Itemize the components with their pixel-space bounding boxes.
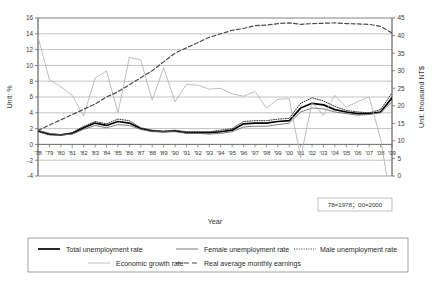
x-tick-label: '90 (171, 150, 179, 156)
x-tick-label: '03 (320, 150, 328, 156)
x-tick-label: '08 (377, 150, 385, 156)
x-tick-label: '92 (194, 150, 202, 156)
x-tick-label: '87 (137, 150, 145, 156)
y-tick-label-left: -4 (27, 172, 33, 179)
x-tick-label: '93 (205, 150, 213, 156)
x-tick-label: '82 (80, 150, 88, 156)
x-tick-label: '97 (251, 150, 259, 156)
x-axis-title: Year (208, 217, 223, 226)
x-tick-label: '98 (262, 150, 270, 156)
y-tick-label-left: 14 (26, 30, 34, 37)
x-tick-label: '05 (342, 150, 350, 156)
chart-container: 1614121086420-2-4454035302520151050'78'7… (0, 0, 435, 282)
y-tick-label-right: 30 (398, 67, 406, 74)
x-tick-label: '85 (114, 150, 122, 156)
y-tick-label-left: -2 (27, 157, 33, 164)
y-tick-label-left: 16 (26, 14, 34, 21)
y-tick-label-left: 10 (26, 62, 34, 69)
y-tick-label-right: 25 (398, 85, 406, 92)
legend-label-3: Economic growth rate (116, 260, 184, 268)
legend-box (28, 238, 408, 272)
y-tick-label-left: 6 (29, 93, 33, 100)
x-tick-label: '86 (125, 150, 133, 156)
legend-label-1: Female unemployment rate (204, 246, 289, 254)
x-tick-label: '88 (148, 150, 156, 156)
x-tick-label: '94 (217, 150, 225, 156)
x-tick-label: '06 (354, 150, 362, 156)
line-chart: 1614121086420-2-4454035302520151050'78'7… (0, 0, 435, 282)
x-tick-label: '78 (34, 150, 42, 156)
x-tick-label: '80 (57, 150, 65, 156)
x-tick-label: '79 (46, 150, 54, 156)
y-tick-label-right: 10 (398, 137, 406, 144)
y-tick-label-right: 45 (398, 14, 406, 21)
legend-label-0: Total unemployment rate (66, 246, 143, 254)
x-tick-label: '83 (91, 150, 99, 156)
x-tick-label: '99 (274, 150, 282, 156)
x-tick-label: '96 (240, 150, 248, 156)
y-tick-label-left: 0 (29, 141, 33, 148)
x-tick-label: '95 (228, 150, 236, 156)
y-tick-label-left: 8 (29, 78, 33, 85)
x-tick-label: '00 (285, 150, 293, 156)
y-tick-label-right: 5 (398, 155, 402, 162)
legend-label-4: Real average monthly earnings (204, 260, 301, 268)
x-tick-label: '81 (68, 150, 76, 156)
y-tick-label-right: 0 (398, 172, 402, 179)
y-tick-label-right: 35 (398, 50, 406, 57)
y-tick-label-left: 12 (26, 46, 34, 53)
x-tick-label: '02 (308, 150, 316, 156)
y-axis-left-title: Unit: % (5, 85, 14, 109)
y-axis-right-title: Unit: thousand NT$ (417, 66, 426, 128)
legend-label-2: Male unemployment rate (320, 246, 397, 254)
y-tick-label-right: 15 (398, 120, 406, 127)
x-tick-label: '09 (388, 150, 396, 156)
y-tick-label-right: 40 (398, 32, 406, 39)
x-tick-label: '84 (103, 150, 111, 156)
y-tick-label-left: 2 (29, 125, 33, 132)
x-tick-label: '07 (365, 150, 373, 156)
x-tick-label: '89 (160, 150, 168, 156)
note-label: 78=1978；00=2000 (328, 201, 383, 209)
y-tick-label-right: 20 (398, 102, 406, 109)
x-tick-label: '91 (183, 150, 191, 156)
y-tick-label-left: 4 (29, 109, 33, 116)
x-tick-label: '04 (331, 150, 339, 156)
